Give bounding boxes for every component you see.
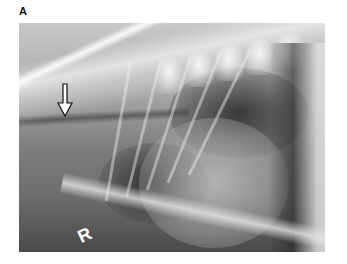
radiograph-image: R — [19, 23, 325, 252]
panel-label: A — [19, 5, 27, 17]
arrow-down-icon — [57, 83, 73, 117]
vertebra — [214, 45, 244, 81]
